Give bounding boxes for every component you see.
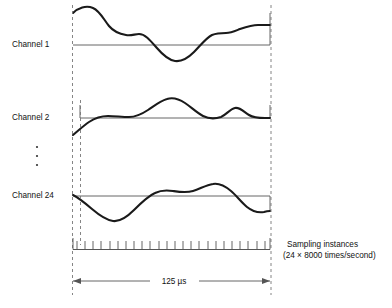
- figure-root: 125 µs Channel 1 Channel 2 Channel 24 Sa…: [0, 0, 392, 308]
- channel-24-label: Channel 24: [12, 191, 54, 200]
- sampling-tick-marks: [77, 241, 265, 250]
- sampling-instances-title: Sampling instances: [287, 240, 358, 249]
- channel-1-panel: [73, 7, 270, 61]
- channel-ellipsis-icon: [36, 146, 38, 166]
- channel-24-panel: [73, 184, 270, 221]
- multiplexing-diagram: 125 µs Channel 1 Channel 2 Channel 24 Sa…: [0, 0, 392, 308]
- frame-duration-label: 125 µs: [162, 277, 187, 286]
- channel-1-label: Channel 1: [12, 40, 50, 49]
- sampling-instances-rate: (24 × 8000 times/second): [283, 251, 376, 260]
- dimension-arrow-left-icon: [73, 278, 81, 284]
- channel-1-waveform: [73, 7, 270, 61]
- dimension-arrow-right-icon: [262, 278, 270, 284]
- frame-duration-dimension: 125 µs: [73, 277, 270, 286]
- channel-2-panel: [73, 98, 270, 135]
- channel-2-label: Channel 2: [12, 113, 50, 122]
- channel-2-waveform: [73, 98, 270, 135]
- sampling-instances-axis: [73, 238, 270, 250]
- channel-24-waveform: [73, 184, 270, 221]
